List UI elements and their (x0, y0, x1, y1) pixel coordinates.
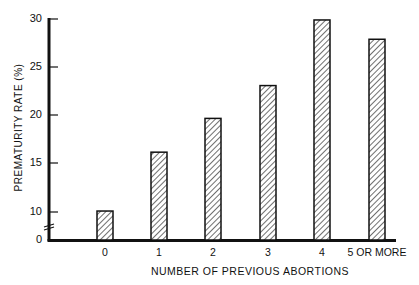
bar-2 (205, 118, 221, 240)
bar-5-or-more (369, 39, 385, 240)
y-axis-label: PREMATURITY RATE (%) (13, 58, 24, 198)
bar-4 (314, 20, 330, 240)
y-tick-label: 10 (20, 205, 42, 217)
bar-0 (97, 211, 113, 240)
chart: 30252015100 012345 OR MORE PREMATURITY R… (0, 0, 419, 285)
x-axis-label: NUMBER OF PREVIOUS ABORTIONS (110, 265, 390, 277)
chart-plot-area (0, 0, 419, 285)
y-tick-label: 30 (20, 12, 42, 24)
y-tick-label: 0 (20, 233, 42, 245)
bars (97, 20, 385, 240)
bar-3 (260, 86, 276, 240)
bar-1 (151, 152, 167, 240)
x-tick-label: 5 OR MORE (337, 246, 417, 258)
